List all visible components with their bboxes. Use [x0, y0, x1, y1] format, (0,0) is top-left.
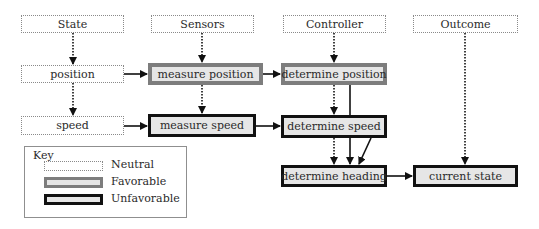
- legend-label-unfavorable: Unfavorable: [111, 192, 180, 205]
- edge-determine-speed-heading-diagonal: [359, 138, 371, 164]
- legend: Key Neutral Favorable Unfavorable: [24, 146, 187, 218]
- node-determine-heading: determine heading: [281, 165, 387, 187]
- node-determine-position: determine position: [281, 63, 387, 85]
- legend-swatch-favorable: [44, 177, 103, 188]
- node-measure-position: measure position: [148, 63, 263, 85]
- column-header-sensors: Sensors: [151, 15, 254, 33]
- node-position: position: [21, 65, 124, 83]
- column-header-outcome: Outcome: [413, 15, 518, 33]
- legend-label-neutral: Neutral: [111, 158, 154, 171]
- legend-swatch-neutral: [44, 161, 103, 171]
- column-header-state: State: [21, 15, 124, 33]
- column-header-controller: Controller: [283, 15, 386, 33]
- node-speed: speed: [21, 116, 124, 135]
- legend-swatch-unfavorable: [44, 194, 103, 205]
- node-current-state: current state: [413, 165, 518, 187]
- node-determine-speed: determine speed: [281, 115, 387, 138]
- node-measure-speed: measure speed: [148, 114, 256, 137]
- legend-label-favorable: Favorable: [111, 175, 166, 188]
